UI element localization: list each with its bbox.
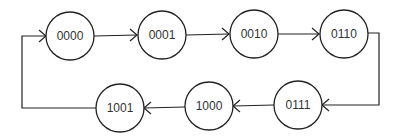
edge-0000-0001 bbox=[94, 29, 137, 41]
state-label: 0010 bbox=[241, 27, 268, 41]
edge-0001-0010 bbox=[186, 28, 229, 40]
state-node-1001: 1001 bbox=[96, 84, 144, 132]
state-diagram: 0000 0001 0010 0110 0111 1000 1001 bbox=[0, 0, 397, 139]
state-label: 1001 bbox=[107, 101, 134, 115]
state-node-0000: 0000 bbox=[46, 12, 94, 60]
state-label: 0111 bbox=[286, 98, 311, 112]
state-label: 0000 bbox=[57, 29, 84, 43]
state-node-0010: 0010 bbox=[230, 10, 278, 58]
state-label: 1000 bbox=[196, 99, 223, 113]
state-node-0111: 0111 bbox=[274, 81, 322, 129]
state-node-0110: 0110 bbox=[320, 10, 368, 58]
state-node-1000: 1000 bbox=[185, 82, 233, 130]
state-label: 0001 bbox=[149, 28, 176, 42]
edge-0111-1000 bbox=[233, 100, 274, 112]
state-label: 0110 bbox=[331, 27, 357, 41]
state-node-0001: 0001 bbox=[138, 11, 186, 59]
edge-1000-1001 bbox=[144, 102, 185, 114]
edge-0010-0110 bbox=[278, 28, 319, 40]
